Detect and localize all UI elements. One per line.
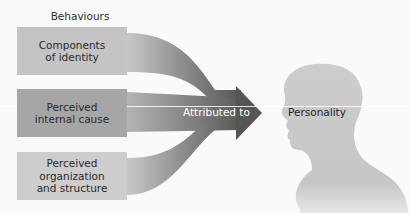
input-box-perceived-organization: Perceived organization and structure xyxy=(17,152,127,200)
input-label: Perceived internal cause xyxy=(35,101,109,126)
input-label: Components of identity xyxy=(39,39,105,64)
behaviours-title: Behaviours xyxy=(30,10,130,22)
arrow-label: Attributed to xyxy=(183,106,250,118)
input-label: Perceived organization and structure xyxy=(37,157,108,195)
attribution-diagram: Behaviours Components of identity Percei… xyxy=(0,0,410,213)
target-label: Personality xyxy=(288,106,346,118)
head-silhouette-icon xyxy=(282,64,408,213)
input-box-components-of-identity: Components of identity xyxy=(17,27,127,75)
input-box-perceived-internal-cause: Perceived internal cause xyxy=(17,89,127,137)
